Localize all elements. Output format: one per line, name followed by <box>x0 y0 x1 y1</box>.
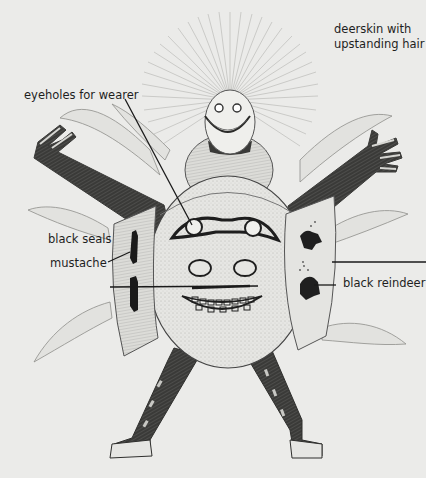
label-deerskin-line2: upstanding hair <box>334 37 424 52</box>
left-panel <box>112 206 158 356</box>
label-deerskin-line1: deerskin with <box>334 22 424 37</box>
label-deerskin: deerskin with upstanding hair <box>334 22 424 52</box>
label-eyeholes: eyeholes for wearer <box>24 88 138 103</box>
label-mustache: mustache <box>50 256 107 271</box>
top-face <box>205 90 255 154</box>
label-black-seals: black seals <box>48 232 111 247</box>
illustration-canvas: deerskin with upstanding hair eyeholes f… <box>0 0 426 478</box>
label-black-reindeer: black reindeer <box>343 276 425 291</box>
right-panel <box>285 196 336 350</box>
